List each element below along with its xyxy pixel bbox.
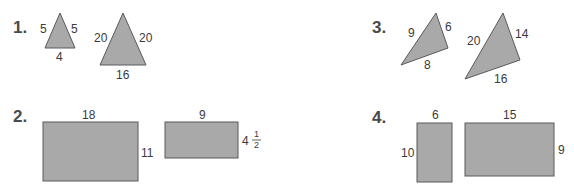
height-label-numerator: 1 [254, 129, 259, 139]
rectangle-shape [43, 122, 138, 181]
width-label: 9 [199, 108, 206, 122]
problem-number: 1. [13, 18, 27, 37]
problem-2: 2. 18 11 9 4 1 2 [13, 107, 261, 181]
side-label-left: 9 [408, 26, 415, 40]
problem-1: 1. 5 5 4 20 20 16 [13, 13, 153, 82]
side-label-bottom: 8 [424, 58, 431, 72]
width-label: 6 [432, 108, 439, 122]
problem-number: 4. [372, 108, 386, 127]
triangle-small: 9 6 8 [401, 13, 452, 72]
rectangle-shape [165, 122, 238, 158]
rectangle-tall: 6 10 [401, 108, 452, 182]
problem-number: 3. [372, 18, 386, 37]
side-label-bottom: 16 [116, 68, 130, 82]
triangle-large: 20 20 16 [94, 13, 153, 82]
height-label: 9 [558, 143, 565, 157]
triangle-small: 5 5 4 [40, 13, 78, 64]
height-label: 11 [141, 146, 154, 160]
rectangle-large: 18 11 [43, 108, 154, 181]
rectangle-shape [465, 123, 554, 176]
problem-4: 4. 6 10 15 9 [372, 108, 565, 182]
height-label-denominator: 2 [254, 140, 259, 150]
side-label-right: 6 [445, 20, 452, 34]
problem-3: 3. 9 6 8 20 14 16 [372, 13, 529, 86]
side-label-left: 5 [40, 22, 47, 36]
triangle-large: 20 14 16 [465, 13, 529, 86]
height-label: 10 [401, 146, 415, 160]
rectangle-small: 9 4 1 2 [165, 108, 261, 158]
worksheet-figures: 1. 5 5 4 20 20 16 3. 9 6 8 20 14 16 [0, 0, 574, 196]
side-label-left: 20 [467, 34, 481, 48]
side-label-bottom: 4 [56, 50, 63, 64]
rectangle-shape [417, 123, 452, 182]
side-label-left: 20 [94, 31, 108, 45]
side-label-right: 20 [139, 31, 153, 45]
problem-number: 2. [13, 107, 27, 126]
width-label: 18 [82, 108, 96, 122]
width-label: 15 [503, 108, 517, 122]
height-label-whole: 4 [242, 134, 249, 148]
side-label-bottom: 16 [494, 72, 508, 86]
side-label-right: 5 [71, 22, 78, 36]
side-label-right: 14 [515, 27, 529, 41]
rectangle-wide: 15 9 [465, 108, 565, 176]
